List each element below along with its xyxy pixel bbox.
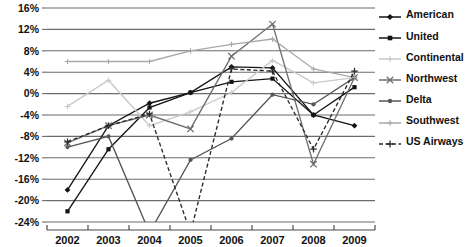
data-point [228,53,234,59]
y-tick-label: 4% [24,66,40,78]
data-point [188,48,194,53]
legend-item-continental[interactable]: Continental [378,46,467,67]
y-tick-label: -12% [14,152,39,164]
legend-marker-icon [378,9,402,21]
data-point [270,93,274,97]
data-point [188,109,194,114]
x-tick-label: 2004 [137,234,162,246]
data-point [311,102,315,106]
x-tick-label: 2009 [342,234,366,246]
x-tick-label: 2008 [301,234,325,246]
x-axis [47,225,375,230]
y-tick-label: 0% [24,87,40,99]
series-line [68,79,355,212]
data-point [188,90,192,94]
y-tick-label: 12% [18,23,40,35]
chart-container: 16%12%8%4%0%-4%-8%-12%-16%-20%-24% 20022… [0,0,467,247]
data-point [147,105,151,109]
data-point [351,68,358,75]
legend-item-united[interactable]: United [378,25,467,46]
legend-label: American [406,9,454,20]
data-point [270,77,274,81]
legend-marker-icon [378,115,402,127]
legend-label: United [406,31,439,42]
data-point [352,85,356,89]
legend-label: Southwest [406,115,459,126]
data-point [352,123,358,129]
x-tick-label: 2002 [55,234,79,246]
line-chart-plot: 16%12%8%4%0%-4%-8%-12%-16%-20%-24% 20022… [0,0,378,247]
data-point [229,42,235,47]
gridlines [42,8,375,222]
legend-item-northwest[interactable]: Northwest [378,68,467,89]
legend-item-delta[interactable]: Delta [378,89,467,110]
data-point [64,138,71,145]
legend-marker-icon [378,93,402,105]
y-tick-label: 8% [24,45,40,57]
x-tick-label: 2003 [96,234,120,246]
data-point [65,59,71,64]
data-point [269,68,276,75]
data-point [310,146,317,153]
y-tick-label: 16% [18,2,40,14]
x-tick-label: 2006 [219,234,243,246]
data-point [106,147,110,151]
legend-marker-icon [378,51,402,63]
y-tick-label: -20% [14,194,39,206]
data-point [147,100,153,106]
y-tick-label: -24% [14,216,39,228]
legend-label: Delta [406,94,432,105]
series-delta [65,75,356,232]
legend-marker-icon [378,72,402,84]
legend-item-us-airways[interactable]: US Airways [378,131,467,152]
data-point [229,136,233,140]
data-point [188,158,192,162]
legend-label: Continental [406,52,464,63]
x-tick-label: 2007 [260,234,284,246]
legend-marker-icon [378,136,402,148]
data-point [147,59,153,64]
series-southwest [65,36,358,80]
y-axis-tick-labels: 16%12%8%4%0%-4%-8%-12%-16%-20%-24% [14,2,39,228]
data-point [311,113,315,117]
y-tick-label: -8% [20,130,39,142]
data-point [187,126,193,132]
legend-item-american[interactable]: American [378,4,467,25]
data-point [106,59,112,64]
x-tick-label: 2005 [178,234,202,246]
y-tick-label: -16% [14,173,39,185]
legend-label: US Airways [406,136,463,147]
x-axis-tick-labels: 20022003200420052006200720082009 [55,234,366,246]
data-point [229,80,233,84]
series-united [65,77,356,214]
chart-legend: AmericanUnitedContinentalNorthwestDeltaS… [378,4,467,152]
data-point [106,134,110,138]
y-tick-label: -4% [20,109,39,121]
data-point [65,209,69,213]
legend-item-southwest[interactable]: Southwest [378,110,467,131]
data-point [65,145,69,149]
legend-marker-icon [378,30,402,42]
legend-label: Northwest [406,73,457,84]
